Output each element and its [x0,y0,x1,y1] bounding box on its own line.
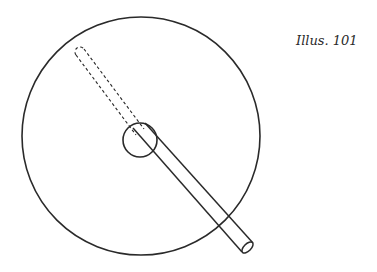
figure-caption: Illus. 101 [296,33,358,48]
rod-solid [133,123,255,255]
hub-circle [123,123,157,157]
rod-end-cap [240,240,255,255]
rod-ghost-dashed [75,47,144,135]
illustration: Illus. 101 [0,0,377,272]
